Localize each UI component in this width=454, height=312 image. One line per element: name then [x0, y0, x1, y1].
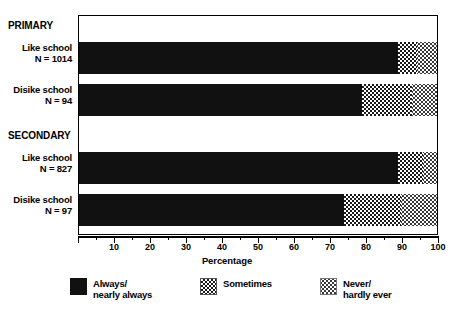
legend-label-never: Never/ hardly ever	[343, 278, 392, 300]
category-label-primary-like-school: Like school N = 1014	[0, 42, 72, 64]
category-label-line2: N = 97	[0, 205, 72, 216]
segment-never	[423, 152, 437, 184]
x-tick-label-30: 30	[181, 242, 191, 252]
x-axis-title: Percentage	[0, 255, 454, 266]
x-tick-85	[384, 236, 385, 240]
group-label-secondary: SECONDARY	[8, 130, 74, 141]
x-tick-5	[96, 236, 97, 240]
plot-area	[78, 15, 438, 235]
bar-primary-like-school	[79, 42, 437, 74]
bar-primary-dislike-school	[79, 84, 437, 116]
segment-sometimes	[398, 42, 418, 74]
x-tick-label-20: 20	[145, 242, 155, 252]
x-tick-45	[240, 236, 241, 240]
category-label-line1: Like school	[22, 152, 72, 163]
category-label-secondary-like-school: Like school N = 827	[0, 152, 72, 174]
legend-label-line2: hardly ever	[343, 289, 392, 300]
legend-label-line1: Always/	[93, 278, 127, 289]
legend-item-never: Never/ hardly ever	[320, 278, 392, 300]
legend-swatch-sometimes-icon	[200, 278, 217, 295]
chart-legend: Always/ nearly always Sometimes Never/ h…	[70, 278, 450, 308]
x-tick-label-90: 90	[397, 242, 407, 252]
x-tick-label-40: 40	[217, 242, 227, 252]
segment-always	[79, 152, 398, 184]
x-tick-label-50: 50	[253, 242, 263, 252]
x-tick-25	[168, 236, 169, 240]
segment-never	[412, 84, 437, 116]
segment-always	[79, 42, 398, 74]
segment-always	[79, 194, 344, 226]
x-tick-75	[348, 236, 349, 240]
legend-swatch-never-icon	[320, 278, 337, 295]
bar-secondary-dislike-school	[79, 194, 437, 226]
legend-item-sometimes: Sometimes	[200, 278, 272, 295]
x-tick-label-100: 100	[430, 242, 445, 252]
x-tick-35	[204, 236, 205, 240]
stacked-bar-chart: PRIMARY Like school N = 1014 Disike scho…	[0, 0, 454, 312]
segment-never	[401, 194, 437, 226]
category-label-line1: Disike school	[13, 84, 72, 95]
segment-always	[79, 84, 362, 116]
bar-secondary-like-school	[79, 152, 437, 184]
category-label-line2: N = 1014	[0, 53, 72, 64]
segment-never	[417, 42, 437, 74]
legend-label-always: Always/ nearly always	[93, 278, 152, 300]
legend-label-line1: Never/	[343, 278, 371, 289]
x-tick-95	[420, 236, 421, 240]
category-label-primary-dislike-school: Disike school N = 94	[0, 84, 72, 106]
x-tick-label-70: 70	[325, 242, 335, 252]
x-tick-15	[132, 236, 133, 240]
x-tick-0	[78, 236, 79, 243]
legend-label-line2: nearly always	[93, 289, 152, 300]
x-tick-label-80: 80	[361, 242, 371, 252]
category-label-line1: Like school	[22, 42, 72, 53]
group-label-primary: PRIMARY	[8, 20, 74, 31]
segment-sometimes	[398, 152, 423, 184]
category-label-line2: N = 94	[0, 95, 72, 106]
x-tick-55	[276, 236, 277, 240]
segment-sometimes	[344, 194, 401, 226]
legend-label-sometimes: Sometimes	[223, 278, 272, 289]
category-label-secondary-dislike-school: Disike school N = 97	[0, 194, 72, 216]
x-tick-label-10: 10	[109, 242, 119, 252]
category-label-line2: N = 827	[0, 163, 72, 174]
x-tick-65	[312, 236, 313, 240]
legend-swatch-always-icon	[70, 278, 87, 295]
legend-label-line1: Sometimes	[223, 278, 272, 289]
legend-item-always: Always/ nearly always	[70, 278, 152, 300]
x-tick-label-60: 60	[289, 242, 299, 252]
segment-sometimes	[362, 84, 412, 116]
category-label-line1: Disike school	[13, 194, 72, 205]
